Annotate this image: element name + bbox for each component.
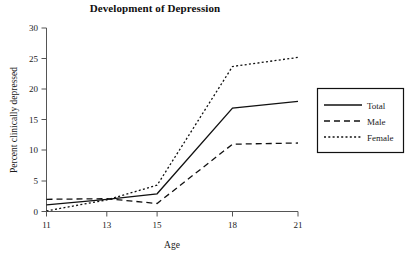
x-tick-label-11: 11	[42, 220, 51, 230]
y-axis-title: Percent clinically depressed	[9, 67, 19, 173]
legend-label-female: Female	[367, 133, 394, 143]
series-line-male	[47, 143, 299, 204]
y-axis-ticks	[42, 28, 47, 212]
y-tick-label-15: 15	[29, 115, 39, 125]
legend-box	[318, 89, 404, 153]
chart-legend: Total Male Female	[318, 89, 404, 153]
y-tick-label-30: 30	[29, 23, 39, 33]
chart-plot-area: 0 5 10 15 20 25 30 11 13 15 18 21 Age Pe…	[0, 0, 409, 258]
x-tick-label-15: 15	[153, 220, 163, 230]
x-axis-ticks	[47, 212, 299, 217]
legend-label-male: Male	[367, 117, 386, 127]
x-tick-label-21: 21	[294, 220, 303, 230]
y-tick-label-20: 20	[29, 84, 39, 94]
chart-figure: Development of Depression 0 5 10 15 20 2…	[0, 0, 409, 258]
y-tick-label-10: 10	[29, 145, 39, 155]
legend-label-total: Total	[367, 101, 386, 111]
y-tick-label-25: 25	[29, 54, 39, 64]
x-tick-label-18: 18	[228, 220, 238, 230]
y-tick-label-5: 5	[34, 176, 39, 186]
x-tick-label-13: 13	[102, 220, 112, 230]
series-line-female	[47, 57, 299, 211]
y-tick-label-0: 0	[34, 207, 39, 217]
series-line-total	[47, 101, 299, 204]
x-axis-title: Age	[164, 240, 180, 250]
